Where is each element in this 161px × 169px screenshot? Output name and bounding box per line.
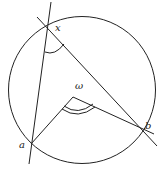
label-omega: ω <box>75 80 83 91</box>
line-xa <box>29 2 51 164</box>
central-angle-arc-inner <box>64 104 93 111</box>
inscribed-angle-diagram: x ω a b <box>0 0 161 169</box>
label-a: a <box>19 139 25 150</box>
segment-omega-b <box>73 97 154 134</box>
inscribed-angle-arc <box>45 44 64 53</box>
label-x: x <box>55 22 61 33</box>
label-b: b <box>145 120 151 131</box>
